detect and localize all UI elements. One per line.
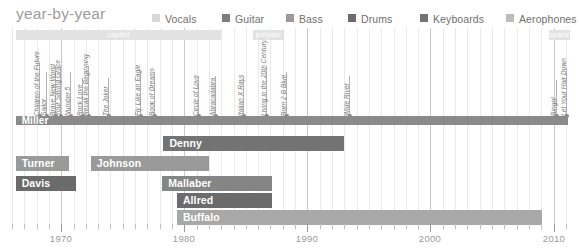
member-bar-mallaber[interactable]: Mallaber <box>162 176 272 191</box>
axis-tick-minor <box>504 224 505 229</box>
gridline-minor <box>320 28 321 230</box>
gridline-minor <box>344 28 345 230</box>
axis-tick-minor <box>295 224 296 229</box>
gridline-minor <box>369 28 370 230</box>
axis-tick-major <box>184 224 185 232</box>
axis-tick-label: 1970 <box>50 233 72 244</box>
axis-tick-major <box>307 224 308 232</box>
member-bar-turner[interactable]: Turner <box>16 156 69 171</box>
album-title: Born 2 B Blue <box>280 75 287 116</box>
album-title: Circle of Love <box>192 75 199 116</box>
legend-label: Bass <box>299 13 323 25</box>
album-title: The Joker <box>102 86 109 116</box>
record-label-polydor: polydor <box>253 30 284 40</box>
album-title: Fly Like an Eagle <box>134 64 141 116</box>
gridline-minor <box>147 28 148 230</box>
member-bar-label: Miller <box>22 116 49 125</box>
axis-tick-minor <box>529 224 530 229</box>
album-title: Your Saving Grace <box>54 60 61 116</box>
album-title: Book of Dreams <box>148 68 155 116</box>
member-bar-label: Denny <box>169 136 202 151</box>
legend-swatch-icon <box>506 14 514 22</box>
legend-swatch-icon <box>348 14 356 22</box>
axis-tick-major <box>61 224 62 232</box>
album-title: Abracadabra <box>209 78 216 116</box>
year-by-year-chart: year-by-year VocalsGuitarBassDrumsKeyboa… <box>0 0 579 248</box>
gridline-minor <box>74 28 75 230</box>
axis-tick-minor <box>147 224 148 229</box>
chart-header: year-by-year VocalsGuitarBassDrumsKeyboa… <box>0 0 579 28</box>
gridline-minor <box>12 28 13 230</box>
axis-tick-minor <box>283 224 284 229</box>
axis-tick-minor <box>98 224 99 229</box>
gridline-minor <box>394 28 395 230</box>
axis-tick-minor <box>566 224 567 229</box>
gridline-minor <box>492 28 493 230</box>
legend-item-drums: Drums <box>348 9 392 23</box>
axis-tick-minor <box>381 224 382 229</box>
gridline-minor <box>517 28 518 230</box>
record-label-capitol: capitol <box>16 30 222 40</box>
gridline-minor <box>49 28 50 230</box>
legend-item-guitar: Guitar <box>222 9 264 23</box>
legend-item-aerophones: Aerophones <box>506 9 577 23</box>
gridline-minor <box>406 28 407 230</box>
gridline-minor <box>541 28 542 230</box>
gridline-major <box>554 28 555 230</box>
album-title: Italian X Rays <box>237 74 244 116</box>
legend-swatch-icon <box>222 14 230 22</box>
gridline-minor <box>443 28 444 230</box>
axis-tick-minor <box>246 224 247 229</box>
axis-tick-minor <box>320 224 321 229</box>
axis-tick-minor <box>517 224 518 229</box>
axis-tick-minor <box>467 224 468 229</box>
axis-tick-minor <box>344 224 345 229</box>
axis-tick-minor <box>541 224 542 229</box>
album-title: Number 5 <box>64 87 71 116</box>
gridline-minor <box>357 28 358 230</box>
legend-label: Guitar <box>235 13 264 25</box>
gridline-minor <box>480 28 481 230</box>
member-bar-johnson[interactable]: Johnson <box>91 156 209 171</box>
axis-tick-minor <box>455 224 456 229</box>
axis-tick-minor <box>492 224 493 229</box>
axis-tick-label: 1990 <box>296 233 318 244</box>
gridline-minor <box>381 28 382 230</box>
axis-tick-minor <box>12 224 13 229</box>
album-title: Living in the 20th Century <box>260 40 267 116</box>
axis-tick-major <box>430 224 431 232</box>
album-title: Recall the Beginning <box>82 54 89 116</box>
member-bar-denny[interactable]: Denny <box>163 136 344 151</box>
gridline-minor <box>123 28 124 230</box>
member-bar-label: Buffalo <box>183 210 220 225</box>
gridline-minor <box>160 28 161 230</box>
legend-swatch-icon <box>420 14 428 22</box>
member-bar-davis[interactable]: Davis <box>16 176 76 191</box>
member-bar-allred[interactable]: Allred <box>177 193 272 208</box>
gridline-minor <box>332 28 333 230</box>
axis-tick-minor <box>418 224 419 229</box>
member-bar-label: Davis <box>22 176 51 191</box>
gridline-major <box>307 28 308 230</box>
member-bar-miller[interactable]: Miller <box>16 116 569 125</box>
gridline-minor <box>295 28 296 230</box>
gridline-minor <box>467 28 468 230</box>
member-bar-label: Turner <box>22 156 55 171</box>
gridline-minor <box>135 28 136 230</box>
gridline-minor <box>283 28 284 230</box>
album-title: Bingo! <box>550 97 557 116</box>
chart-title: year-by-year <box>16 5 105 23</box>
axis-tick-label: 2010 <box>543 233 565 244</box>
legend-swatch-icon <box>286 14 294 22</box>
gridline-minor <box>24 28 25 230</box>
member-bar-buffalo[interactable]: Buffalo <box>177 210 543 225</box>
gridline-minor <box>418 28 419 230</box>
plot-area: capitolpolydorspace cowboy Children of t… <box>0 28 579 248</box>
album-title: Wide River <box>343 83 350 116</box>
axis-tick-minor <box>160 224 161 229</box>
legend-item-vocals: Vocals <box>152 9 197 23</box>
x-axis: 19701980199020002010 <box>0 224 579 248</box>
axis-tick-minor <box>406 224 407 229</box>
gridline-major <box>430 28 431 230</box>
legend-label: Keyboards <box>433 13 484 25</box>
